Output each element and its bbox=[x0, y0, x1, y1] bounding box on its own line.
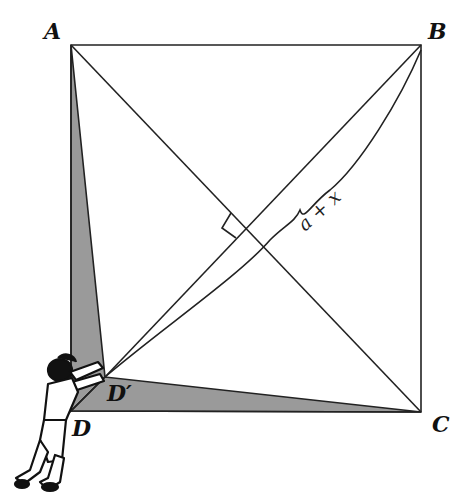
vertex-label-b: B bbox=[427, 18, 447, 44]
square-diagram: A B C D D′ a + x bbox=[0, 0, 460, 498]
segment-BD-prime bbox=[105, 45, 421, 377]
vertex-label-d-prime: D′ bbox=[106, 380, 132, 406]
vertex-label-c: C bbox=[432, 411, 450, 437]
vertex-label-a: A bbox=[42, 18, 61, 44]
vertex-label-d: D bbox=[71, 415, 91, 441]
shaded-triangle-left bbox=[71, 45, 105, 411]
